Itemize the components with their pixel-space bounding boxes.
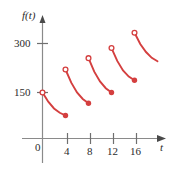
curve-branch-3 <box>89 58 112 92</box>
figure-plot-area: f(t) t 300 150 0 4 8 12 16 <box>0 0 174 174</box>
curve-branch-5 <box>135 33 158 62</box>
closed-endpoint-branch-3 <box>109 90 114 95</box>
open-endpoint-branch-1 <box>40 90 45 95</box>
curve-branch-1 <box>43 93 66 116</box>
x-tick-label-12: 12 <box>107 146 118 157</box>
data-curve-group <box>40 30 157 118</box>
closed-endpoint-branch-1 <box>63 113 68 118</box>
open-endpoint-branch-3 <box>86 56 91 61</box>
open-endpoint-branch-4 <box>109 46 114 51</box>
x-axis-label: t <box>160 142 163 153</box>
curve-branch-4 <box>112 48 135 80</box>
x-tick-label-4: 4 <box>64 146 70 157</box>
x-tick-label-16: 16 <box>130 146 141 157</box>
y-axis-arrowhead <box>40 15 46 23</box>
y-tick-label-150: 150 <box>14 87 31 98</box>
axis-group <box>22 15 166 163</box>
y-axis-label: f(t) <box>22 10 35 21</box>
open-endpoint-branch-2 <box>63 67 68 72</box>
closed-endpoint-branch-2 <box>86 101 91 106</box>
y-tick-label-300: 300 <box>14 38 31 49</box>
closed-endpoint-branch-4 <box>132 78 137 83</box>
open-endpoint-branch-5 <box>132 30 137 35</box>
curve-branch-2 <box>66 70 89 104</box>
origin-label: 0 <box>35 142 41 153</box>
x-tick-label-8: 8 <box>87 146 93 157</box>
